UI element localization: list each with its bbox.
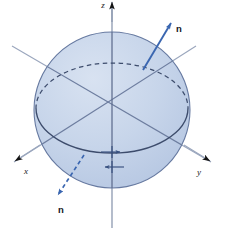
figure-root: z x y n n — [0, 0, 225, 230]
sphere-diagram: z x y n n — [0, 0, 225, 230]
axis-label-x: x — [23, 166, 28, 176]
normal-down-label: n — [58, 204, 64, 215]
axis-arrow-x — [15, 145, 40, 161]
axis-arrow-y — [184, 145, 210, 161]
axis-label-z: z — [100, 0, 105, 10]
normal-up-label: n — [176, 23, 182, 34]
axis-label-y: y — [196, 167, 201, 177]
